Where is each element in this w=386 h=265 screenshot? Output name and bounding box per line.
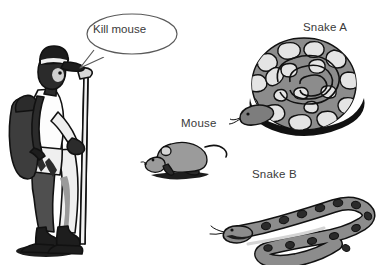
speech-bubble: [74, 8, 186, 70]
hiker-figure: [6, 38, 121, 260]
mouse-drawing: [143, 133, 229, 187]
snake-b-figure: [222, 186, 382, 264]
snake-a-drawing: [238, 32, 374, 144]
label-snake-a: Snake A: [303, 22, 347, 34]
snake-a-figure: [238, 32, 374, 144]
snake-b-drawing: [222, 186, 382, 264]
hiker-drawing: [6, 38, 121, 260]
label-snake-b: Snake B: [252, 169, 297, 181]
illustration-canvas: Kill mouse: [0, 0, 386, 265]
label-mouse: Mouse: [181, 118, 217, 130]
speech-bubble-shape: [74, 8, 186, 70]
mouse-figure: [143, 133, 229, 187]
speech-bubble-text: Kill mouse: [93, 24, 146, 36]
